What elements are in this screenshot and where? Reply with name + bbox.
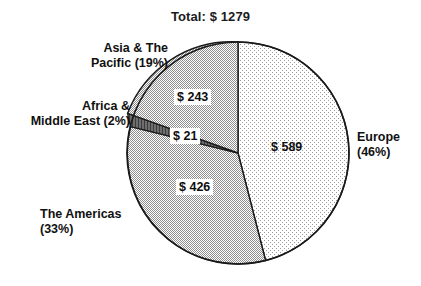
slice-label-asia-the-pacific: Asia & The Pacific (19%) (91, 41, 168, 71)
slice-value-africa-middle-east: $ 21 (170, 128, 200, 144)
slice-label-asia-line1: Asia & The (91, 41, 168, 56)
slice-value-the-americas: $ 426 (176, 179, 213, 195)
slice-label-americas-line2: (33%) (40, 222, 122, 237)
slice-label-asia-line2: Pacific (19%) (91, 56, 168, 71)
slice-value-asia-the-pacific: $ 243 (174, 89, 211, 105)
slice-label-the-americas: The Americas (33%) (40, 207, 122, 237)
slice-value-europe: $ 589 (268, 139, 305, 155)
slice-label-africa-line2: Middle East (2%) (31, 114, 130, 129)
slice-label-europe: Europe (46%) (357, 130, 400, 160)
slice-label-americas-line1: The Americas (40, 207, 122, 222)
slice-label-africa-line1: Africa & (31, 99, 130, 114)
pie-chart-figure: Total: $ 1279 (0, 0, 421, 286)
slice-label-africa-middle-east: Africa & Middle East (2%) (31, 99, 130, 129)
slice-label-europe-line2: (46%) (357, 145, 400, 160)
slice-label-europe-line1: Europe (357, 130, 400, 145)
